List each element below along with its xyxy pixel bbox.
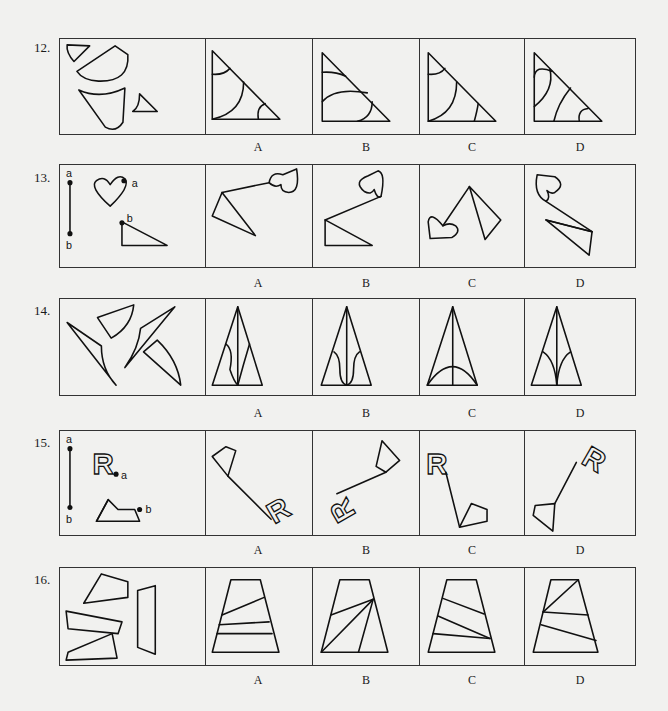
option-d-drawing: R bbox=[525, 431, 635, 535]
triangle-option-c bbox=[420, 39, 525, 134]
option-c-drawing bbox=[420, 568, 525, 665]
option-label-c: C bbox=[462, 276, 482, 291]
point-label-b: b bbox=[66, 239, 72, 251]
option-label-b: B bbox=[356, 673, 376, 688]
option-label-b: B bbox=[356, 406, 376, 421]
svg-text:R: R bbox=[323, 493, 362, 528]
option-label-c: C bbox=[462, 140, 482, 155]
option-label-a: A bbox=[248, 276, 268, 291]
option-d-drawing bbox=[525, 299, 635, 395]
option-label-b: B bbox=[356, 276, 376, 291]
option-label-a: A bbox=[248, 406, 268, 421]
segment-letter-pentagon-figure: a b R a b bbox=[60, 431, 205, 535]
svg-text:b: b bbox=[66, 513, 72, 525]
option-c-figure[interactable] bbox=[419, 39, 525, 134]
svg-text:b: b bbox=[145, 503, 151, 515]
svg-text:a: a bbox=[121, 469, 127, 481]
option-b-figure[interactable] bbox=[312, 39, 419, 134]
question-15-row: a b R a b R R R bbox=[59, 430, 636, 536]
question-12-row bbox=[59, 38, 636, 135]
option-label-b: B bbox=[356, 543, 376, 558]
option-label-a: A bbox=[248, 543, 268, 558]
segment-heart-triangle-figure: a b a b bbox=[60, 165, 205, 267]
option-c-figure[interactable] bbox=[419, 568, 525, 665]
question-14-row bbox=[59, 298, 636, 396]
option-a-figure[interactable] bbox=[205, 165, 313, 267]
option-b-figure[interactable] bbox=[312, 568, 419, 665]
option-a-drawing bbox=[206, 568, 313, 665]
question-16-row bbox=[59, 567, 636, 666]
option-a-drawing bbox=[206, 299, 313, 395]
option-d-figure[interactable] bbox=[524, 165, 635, 267]
svg-text:R: R bbox=[577, 439, 612, 478]
option-d-figure[interactable]: R bbox=[524, 431, 635, 535]
option-c-figure[interactable] bbox=[419, 165, 525, 267]
option-d-drawing bbox=[525, 568, 635, 665]
option-c-figure[interactable]: R bbox=[419, 431, 525, 535]
question-13-row: a b a b bbox=[59, 164, 636, 268]
option-d-figure[interactable] bbox=[524, 39, 635, 134]
question-14-pieces bbox=[60, 299, 205, 395]
svg-text:a: a bbox=[66, 433, 72, 445]
option-a-figure[interactable]: R bbox=[205, 431, 313, 535]
question-13-pieces: a b a b bbox=[60, 165, 205, 267]
option-d-drawing bbox=[525, 165, 635, 267]
letter-r-outline: R bbox=[93, 447, 114, 480]
svg-text:R: R bbox=[260, 491, 295, 530]
question-number-14: 14. bbox=[34, 303, 50, 319]
triangle-option-d bbox=[525, 39, 635, 134]
option-b-drawing bbox=[313, 568, 419, 665]
option-label-d: D bbox=[570, 140, 590, 155]
option-c-drawing: R bbox=[420, 431, 525, 535]
question-15-pieces: a b R a b bbox=[60, 431, 205, 535]
option-label-a: A bbox=[248, 673, 268, 688]
triangle-option-a bbox=[206, 39, 313, 134]
svg-text:b: b bbox=[127, 212, 133, 224]
option-a-drawing bbox=[206, 165, 313, 267]
question-16-pieces bbox=[60, 568, 205, 665]
quadrilateral-pieces-figure bbox=[60, 568, 205, 665]
svg-text:R: R bbox=[426, 447, 447, 480]
question-12-pieces bbox=[60, 39, 205, 134]
question-number-12: 12. bbox=[34, 40, 50, 56]
option-c-drawing bbox=[420, 299, 525, 395]
option-label-b: B bbox=[356, 140, 376, 155]
option-c-drawing bbox=[420, 165, 525, 267]
option-a-figure[interactable] bbox=[205, 39, 313, 134]
option-a-figure[interactable] bbox=[205, 568, 313, 665]
option-label-d: D bbox=[570, 276, 590, 291]
option-b-figure[interactable]: R bbox=[312, 431, 419, 535]
triangle-option-b bbox=[313, 39, 419, 134]
option-d-figure[interactable] bbox=[524, 299, 635, 395]
question-number-13: 13. bbox=[34, 170, 50, 186]
option-label-c: C bbox=[462, 543, 482, 558]
option-b-drawing bbox=[313, 165, 419, 267]
option-c-figure[interactable] bbox=[419, 299, 525, 395]
option-a-figure[interactable] bbox=[205, 299, 313, 395]
option-label-d: D bbox=[570, 673, 590, 688]
option-d-figure[interactable] bbox=[524, 568, 635, 665]
option-b-drawing bbox=[313, 299, 419, 395]
option-label-d: D bbox=[570, 543, 590, 558]
option-a-drawing: R bbox=[206, 431, 313, 535]
svg-text:a: a bbox=[132, 177, 138, 189]
option-b-drawing: R bbox=[313, 431, 419, 535]
point-label-a: a bbox=[66, 167, 72, 179]
option-label-c: C bbox=[462, 406, 482, 421]
question-number-16: 16. bbox=[34, 572, 50, 588]
triangle-pieces-figure bbox=[60, 299, 205, 395]
option-label-d: D bbox=[570, 406, 590, 421]
question-number-15: 15. bbox=[34, 435, 50, 451]
option-label-c: C bbox=[462, 673, 482, 688]
option-b-figure[interactable] bbox=[312, 299, 419, 395]
option-label-a: A bbox=[248, 140, 268, 155]
option-b-figure[interactable] bbox=[312, 165, 419, 267]
puzzle-pieces-figure bbox=[60, 39, 205, 134]
